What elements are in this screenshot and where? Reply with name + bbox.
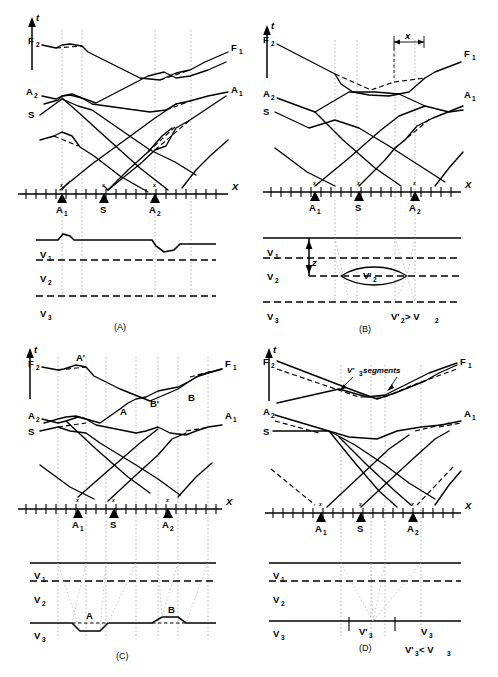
curve-F2-dashed-B [335,74,394,90]
curve-label-F2-sub-D: 2 [271,362,275,369]
velocity-label-V1-sub-C: 1 [42,576,46,583]
curve-label-A1-C: A [225,410,232,421]
curve-label-A1: A [231,84,238,95]
shotpoint-label-A2-C: A [162,519,169,530]
shotpoint-label-A1-B: A [309,202,316,213]
curve-label-F2-sub-C: 2 [36,364,40,371]
projection-lines-D [341,365,421,639]
relation-label-B: V' [391,311,400,322]
velocity-label-V2-C: V [34,594,41,605]
curve-desc2-B [275,148,335,186]
curve-label-S-D: S [263,426,269,437]
relation-op-sub-D: 3 [447,650,451,657]
model-feature-A: A [86,610,93,621]
shotpoint-label-S: S [100,204,106,215]
relation-op-sub-B: 2 [435,317,439,324]
shotpoints-C: x x x [73,497,173,518]
distance-axis-label-D: X [464,500,472,511]
svg-text:x: x [75,497,79,503]
z-depth-marker-B: z [306,238,317,276]
curve-label-A2-sub-C: 2 [36,416,40,423]
v3-segments-annotation-D: V' 3 segments [339,366,401,391]
curve-label-A1-sub: 1 [239,90,243,97]
z-marker-label: z [311,257,317,268]
panel-B: t x F 2 F [249,0,498,338]
panel-caption-A: (A) [114,322,126,332]
shotpoint-label-S-C: S [110,519,116,530]
curve-asc1-C [78,429,158,497]
distance-axis-C: X [18,496,233,514]
time-axis-label: t [36,12,40,23]
relation-label-D: V' [405,644,414,655]
curve-label-F1-sub-D: 1 [468,362,472,369]
svg-text:x: x [165,497,169,503]
velocity-label-V3-sub-B: 3 [275,317,279,324]
time-axis-label-D: t [273,344,277,355]
velocity-label-V1-sub: 1 [48,255,52,262]
velocity-label-V2-D: V [273,594,280,605]
distance-axis-label-B: X [464,179,472,190]
shotpoint-label-A2-sub-D: 2 [415,529,419,536]
curve-label-F2: F [28,35,34,46]
zone-label-V3-prime-sub: 3 [369,632,373,639]
velocity-label-V3: V [40,308,47,319]
distance-axis-label: X [231,181,239,192]
figure-seismic-refraction: t F 2 F 1 A 2 A 1 [0,0,498,677]
shotpoint-label-A1-D: A [315,523,322,534]
curve-label-S-B: S [263,106,269,117]
curve-label-F2-sub: 2 [36,41,40,48]
zone-label-V3-prime: V' [359,626,368,637]
shotpoint-label-A1-sub-C: 1 [80,525,84,532]
curve-asc1-B [315,106,425,186]
curve-F2-B [277,44,461,96]
curve-label-F1-sub-B: 1 [472,54,476,61]
extension-left-D [271,469,315,505]
svg-text:x: x [59,182,63,188]
curve-asc3-D [435,471,461,505]
svg-text:x: x [412,180,416,186]
time-axis-B: t [263,20,275,78]
curve-asc3-B [435,152,463,186]
hook-A1-A [62,181,70,190]
svg-text:x: x [312,180,316,186]
svg-text:x: x [111,497,115,503]
curve-label-F1-sub-C: 1 [233,364,237,371]
curve-S-B [275,112,445,182]
time-axis-D: t [265,344,277,401]
curve-label-A2-sub-D: 2 [271,412,275,419]
zone-label-V3-normal-sub: 3 [429,632,433,639]
curve-label-S-C: S [28,426,34,437]
zone-label-V3-normal: V [421,626,428,637]
shotpoint-label-A1-C: A [72,519,79,530]
curve-F2-A [42,44,228,80]
velocity-label-V2-sub-C: 2 [42,600,46,607]
curve-label-S: S [28,109,34,120]
curve-label-A2-sub-B: 2 [271,94,275,101]
curve-label-A2: A [26,86,33,97]
feature-label-B-prime: B' [150,398,159,409]
shotpoint-label-A2: A [149,204,156,215]
curve-F2-C [42,365,222,401]
curve-label-A1-sub-C: 1 [233,416,237,423]
lens-label-sub: 2 [373,276,377,283]
velocity-label-V1-sub-B: 1 [275,253,279,260]
time-axis-C: t [26,344,38,399]
lens-label: V' [363,270,372,281]
curve-asc3-C [178,463,212,497]
curve-F1-A [44,62,226,104]
velocity-label-V2-sub-D: 2 [281,600,285,607]
panel-caption-D: (D) [359,643,372,653]
velocity-label-V1-D: V [273,570,280,581]
x-marker-label: x [404,30,411,41]
curve-label-F1-sub: 1 [239,48,243,55]
shotpoints-A: x x x [57,182,160,203]
velocity-label-V3-sub-C: 3 [42,636,46,643]
shotpoint-label-A1-sub: 1 [64,210,68,217]
panel-caption-C: (C) [116,651,129,661]
shotpoint-label-S-B: S [355,202,361,213]
velocity-label-V3-C: V [34,630,41,641]
velocity-label-V3-sub-D: 3 [281,634,285,641]
curve-label-F1: F [231,42,237,53]
model-section-A: V 1 V 2 V 3 [36,234,216,321]
segments-note-text: segments [363,366,401,375]
